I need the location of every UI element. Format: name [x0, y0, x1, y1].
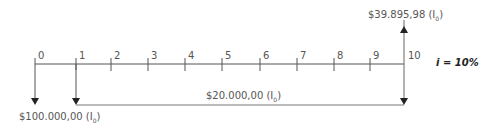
period-label-8: 8	[337, 51, 343, 61]
period-label-6: 6	[263, 51, 269, 61]
period-label-5: 5	[225, 51, 231, 61]
final-value-label: $39.895,98 (I0)	[368, 10, 443, 22]
inflow-arrow-period-10	[400, 26, 408, 33]
period-label-10: 10	[408, 51, 421, 61]
period-label-2: 2	[114, 51, 120, 61]
period-label-0: 0	[38, 51, 44, 61]
period-label-1: 1	[79, 51, 85, 61]
period-label-4: 4	[188, 51, 194, 61]
period-label-7: 7	[300, 51, 306, 61]
interest-rate-label: i = 10%	[436, 57, 479, 68]
annuity-label: $20.000,00 (I0)	[206, 91, 281, 103]
period-label-3: 3	[151, 51, 157, 61]
initial-investment-label: $100.000,00 (I0)	[19, 112, 100, 124]
period-label-9: 9	[373, 51, 379, 61]
